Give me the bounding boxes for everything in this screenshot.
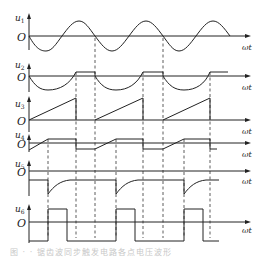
arrow-up-icon bbox=[27, 134, 31, 140]
origin-label: O bbox=[17, 138, 26, 151]
arrow-right-icon bbox=[245, 220, 251, 224]
arrow-right-icon bbox=[245, 141, 251, 145]
arrow-up-icon bbox=[27, 63, 31, 69]
origin-label: O bbox=[17, 71, 26, 84]
x-axis-label: ωt bbox=[242, 226, 253, 235]
row-u6: u6 O ωt bbox=[15, 204, 253, 243]
label-u2: u2 bbox=[15, 60, 25, 71]
figure-caption: 图 · · 锯齿波同步触发电路各点电压波形 bbox=[10, 246, 260, 257]
row-u2: u2 O ωt bbox=[15, 60, 253, 92]
row-u3: u3 O ωt bbox=[15, 96, 253, 136]
x-axis-label: ωt bbox=[242, 177, 253, 186]
arrow-up-icon bbox=[27, 13, 31, 19]
x-axis-label: ωt bbox=[242, 83, 253, 92]
dashed-timing-lines bbox=[48, 38, 210, 238]
arrow-right-icon bbox=[245, 74, 251, 78]
row-u4: u4 O ωt bbox=[15, 130, 253, 159]
label-u1: u1 bbox=[15, 13, 25, 24]
x-axis-label: ωt bbox=[242, 43, 253, 52]
arrow-up-icon bbox=[27, 204, 31, 210]
arrow-right-icon bbox=[245, 34, 251, 38]
arrow-right-icon bbox=[245, 118, 251, 122]
x-axis-label: ωt bbox=[242, 150, 253, 159]
row-u5: u5 O ωt bbox=[15, 159, 253, 196]
row-u1: u1 O ωt bbox=[15, 13, 253, 52]
x-axis-label: ωt bbox=[242, 127, 253, 136]
label-u6: u6 bbox=[15, 204, 25, 215]
arrow-up-icon bbox=[27, 96, 31, 102]
waveform-diagram: u1 O ωt u2 O ωt u3 O ωt u4 O ωt bbox=[0, 0, 265, 258]
arrow-right-icon bbox=[245, 169, 251, 173]
origin-label: O bbox=[17, 166, 26, 179]
label-u3: u3 bbox=[15, 99, 25, 110]
arrow-up-icon bbox=[27, 160, 31, 166]
origin-label: O bbox=[17, 31, 26, 44]
origin-label: O bbox=[17, 115, 26, 128]
origin-label: O bbox=[17, 217, 26, 230]
